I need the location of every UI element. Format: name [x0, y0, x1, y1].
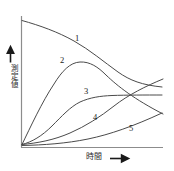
curve-5-path — [22, 113, 162, 146]
up-arrow-icon — [7, 47, 13, 63]
curve-label-2: 2 — [60, 56, 64, 65]
curve-label-4: 4 — [93, 113, 97, 122]
y-axis-label: 測定値 — [4, 64, 17, 88]
curve-label-1: 1 — [75, 34, 79, 43]
curve-label-5: 5 — [129, 124, 133, 133]
curve-diagram-figure: 1 2 3 4 5 測定値 時間 — [0, 0, 174, 171]
curve-2-path — [22, 62, 163, 145]
curve-1-path — [22, 21, 162, 88]
right-arrow-icon — [110, 155, 129, 162]
x-axis-label: 時間 — [86, 152, 102, 162]
curve-label-3: 3 — [84, 87, 88, 96]
